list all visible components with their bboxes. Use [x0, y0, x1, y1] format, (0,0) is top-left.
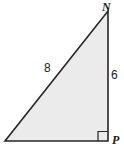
- side-length-label-vertical-leg: 6: [111, 69, 118, 81]
- triangle-diagram-svg: [0, 0, 124, 161]
- side-length-label-hypotenuse: 8: [44, 62, 51, 74]
- vertex-label-p: P: [112, 134, 119, 146]
- triangle-shape: [5, 11, 108, 141]
- vertex-label-n: N: [102, 1, 111, 13]
- geometry-figure: N P 8 6: [0, 0, 124, 161]
